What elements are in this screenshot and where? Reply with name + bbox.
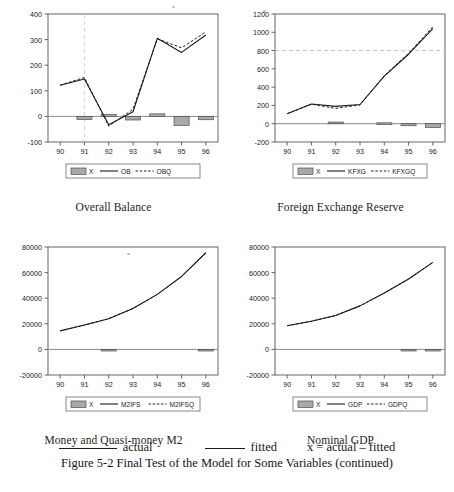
bar-x-series (377, 123, 392, 125)
x-axis-tick-label: 96 (429, 147, 437, 156)
x-axis-tick-label: 90 (56, 147, 64, 156)
bar-x-series (401, 349, 416, 351)
chart-money-quasi-money-m2: -200000200004000060000800009091929394959… (0, 233, 227, 461)
y-axis-tick-label: -200 (255, 138, 269, 147)
legend-label-fitted: KFXGQ (392, 168, 415, 176)
y-axis-tick-label: -20000 (247, 371, 269, 380)
bar-x-series (401, 124, 416, 126)
y-axis-tick-label: 0 (38, 345, 42, 354)
solid-line-swatch-icon (59, 448, 117, 449)
legend-label-x: X (89, 168, 94, 175)
x-axis-tick-label: 94 (153, 147, 161, 156)
x-axis-tick-label: 93 (129, 147, 137, 156)
legend-label-fitted: M2IFSQ (170, 401, 195, 409)
y-axis-tick-label: -100 (28, 138, 42, 147)
x-axis-tick-label: 91 (80, 147, 88, 156)
y-axis-tick-label: 40000 (22, 294, 42, 303)
x-axis-tick-label: 91 (80, 380, 88, 389)
x-axis-tick-label: 94 (380, 147, 388, 156)
bar-x-series (101, 349, 116, 351)
y-axis-tick-label: 1000 (253, 28, 269, 37)
legend-label-actual: M2IFS (121, 401, 141, 408)
y-axis-tick-label: 300 (30, 36, 42, 45)
x-axis-tick-label: 90 (56, 380, 64, 389)
legend-label-fitted: OBQ (157, 168, 172, 176)
legend-label-x: X (316, 168, 321, 175)
x-axis-tick-label: 92 (332, 380, 340, 389)
key-x-formula: x = actual – fitted (307, 440, 395, 454)
x-axis-tick-label: 91 (307, 147, 315, 156)
x-axis-tick-label: 96 (202, 380, 210, 389)
x-axis-tick-label: 90 (283, 147, 291, 156)
y-axis-tick-label: 60000 (22, 269, 42, 278)
legend-label-actual: OB (121, 168, 131, 175)
line-series-gdpq (287, 262, 433, 325)
y-axis-tick-label: 20000 (22, 320, 42, 329)
x-axis-tick-label: 96 (202, 147, 210, 156)
x-axis-tick-label: 93 (356, 380, 364, 389)
bar-x-series (150, 114, 165, 117)
chart-foreign-exchange-reserve: -20002004006008001000120090919293949596X… (227, 0, 454, 228)
chart-overall-balance: -100010020030040090919293949596XOBOBQ Ov… (0, 0, 227, 228)
bar-x-series (198, 349, 213, 351)
legend-label-x: X (316, 401, 321, 408)
x-axis-tick-label: 93 (356, 147, 364, 156)
x-axis-tick-label: 94 (153, 380, 161, 389)
solid-line-swatch-icon (205, 448, 245, 449)
bar-x-series (198, 116, 213, 119)
x-axis-tick-label: 95 (405, 380, 413, 389)
legend-label-x: X (89, 401, 94, 408)
x-axis-tick-label: 95 (405, 147, 413, 156)
y-axis-tick-label: 800 (257, 47, 269, 56)
key-actual: actual (59, 440, 153, 454)
legend-label-fitted: GDPQ (388, 401, 407, 409)
chart-svg-overall-balance: -100010020030040090919293949596XOBOBQ (0, 0, 227, 200)
y-axis-tick-label: 600 (257, 65, 269, 74)
bar-x-series (125, 116, 140, 120)
legend-label-actual: GDP (348, 401, 363, 408)
y-axis-tick-label: 40000 (249, 294, 269, 303)
x-axis-tick-label: 94 (380, 380, 388, 389)
y-axis-tick-label: -20000 (20, 371, 42, 380)
chart-title-overall-balance: Overall Balance (0, 201, 227, 213)
x-axis-tick-label: 95 (178, 147, 186, 156)
line-series-m2ifs (60, 253, 206, 331)
x-axis-tick-label: 92 (105, 380, 113, 389)
chart-svg-money-quasi-money-m2: -200000200004000060000800009091929394959… (0, 233, 227, 433)
figure-caption-block: actual fitted x = actual – fitted Figure… (0, 440, 454, 471)
line-series-kfxg (287, 29, 433, 114)
figure-number-caption: Figure 5-2 Final Test of the Model for S… (0, 456, 454, 471)
y-axis-tick-label: 0 (265, 120, 269, 129)
y-axis-tick-label: 60000 (249, 269, 269, 278)
bar-x-series (425, 349, 440, 351)
line-series-gdp (287, 262, 433, 325)
y-axis-tick-label: 400 (30, 10, 42, 19)
chart-svg-nominal-gdp: -200000200004000060000800009091929394959… (227, 233, 454, 433)
key-x-formula-label: x = actual – fitted (307, 440, 395, 454)
x-axis-tick-label: 92 (332, 147, 340, 156)
y-axis-tick-label: 1200 (253, 10, 269, 19)
chart-svg-foreign-exchange-reserve: -20002004006008001000120090919293949596X… (227, 0, 454, 200)
y-axis-tick-label: 400 (257, 83, 269, 92)
bar-x-series (174, 116, 189, 125)
chart-title-foreign-exchange-reserve: Foreign Exchange Reserve (227, 201, 454, 213)
y-axis-tick-label: 0 (38, 112, 42, 121)
legend-label-actual: KFXG (348, 168, 366, 175)
key-actual-label: actual (123, 440, 153, 454)
key-fitted: fitted (205, 440, 277, 454)
bar-x-series (425, 124, 440, 128)
x-axis-tick-label: 91 (307, 380, 315, 389)
y-axis-tick-label: 200 (30, 61, 42, 70)
chart-nominal-gdp: -200000200004000060000800009091929394959… (227, 233, 454, 461)
y-axis-tick-label: 100 (30, 87, 42, 96)
y-axis-tick-label: 200 (257, 101, 269, 110)
x-axis-tick-label: 90 (283, 380, 291, 389)
y-axis-tick-label: 0 (265, 345, 269, 354)
bar-x-series (77, 116, 92, 119)
line-series-kfxgq (287, 27, 433, 114)
bar-x-series (328, 122, 343, 124)
line-series-ob (60, 35, 206, 125)
line-series-m2ifsq (60, 253, 206, 331)
y-axis-tick-label: 80000 (22, 243, 42, 252)
figure-page: -100010020030040090919293949596XOBOBQ Ov… (0, 0, 454, 492)
